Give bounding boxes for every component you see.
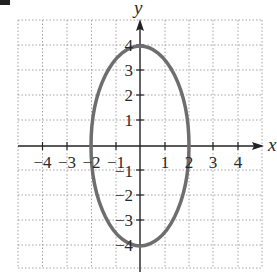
- y-tick-label: 1: [125, 111, 134, 130]
- y-tick-label: 3: [125, 61, 134, 80]
- x-tick-label: 3: [209, 153, 218, 172]
- x-tick-label: 1: [161, 153, 170, 172]
- x-axis-label: x: [267, 134, 277, 155]
- x-tick-label: −3: [58, 153, 76, 172]
- x-tick-label: 2: [185, 153, 194, 172]
- y-tick-label: −4: [115, 236, 134, 255]
- axes: [18, 19, 264, 272]
- x-tick-label: −4: [33, 153, 52, 172]
- ellipse-graph: −4 −3 −2 −1 1 2 3 4 4 3 2 1 −1 −2 −3 −4 …: [0, 0, 277, 277]
- y-tick-label: −3: [115, 211, 133, 230]
- x-tick-label: −2: [82, 153, 100, 172]
- y-tick-label: 4: [125, 36, 134, 55]
- y-tick-label: 2: [125, 86, 134, 105]
- x-tick-labels: −4 −3 −2 −1 1 2 3 4: [33, 153, 242, 172]
- y-tick-label: −2: [115, 186, 133, 205]
- x-tick-label: 4: [234, 153, 243, 172]
- y-tick-label: −1: [115, 162, 133, 181]
- y-axis-label: y: [132, 0, 143, 18]
